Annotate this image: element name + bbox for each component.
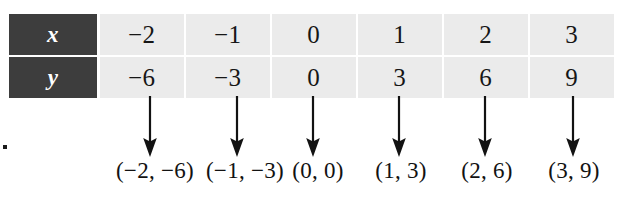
table-cell: −6 (100, 57, 184, 98)
down-arrow-icon (563, 96, 583, 158)
ordered-pair-label: (−2, −6) (116, 158, 194, 184)
row-header-x: x (9, 14, 97, 55)
table-row: x −2 −1 0 1 2 3 (9, 14, 615, 55)
ordered-pair-label: (2, 6) (461, 158, 513, 184)
table-cell: −3 (186, 57, 270, 98)
table-cell: −2 (100, 14, 184, 55)
down-arrow-icon (227, 96, 247, 158)
table-cell: 3 (530, 14, 614, 55)
down-arrow-icon (389, 96, 409, 158)
row-header-y: y (9, 57, 97, 98)
table-cell: 0 (272, 57, 356, 98)
table-cell: 6 (444, 57, 528, 98)
table-cell: 1 (358, 14, 442, 55)
down-arrow-icon (303, 96, 323, 158)
table-cell: 0 (272, 14, 356, 55)
row-y-cells: −6 −3 0 3 6 9 (100, 57, 614, 98)
arrow-group (0, 96, 627, 160)
row-x-cells: −2 −1 0 1 2 3 (100, 14, 614, 55)
ordered-pair-label: (0, 0) (292, 158, 344, 184)
table-row: y −6 −3 0 3 6 9 (9, 57, 615, 98)
function-table-figure: x −2 −1 0 1 2 3 y −6 −3 0 3 6 9 (0, 0, 627, 200)
down-arrow-icon (475, 96, 495, 158)
ordered-pair-label: (−1, −3) (206, 158, 284, 184)
table-cell: 9 (530, 57, 614, 98)
ordered-pair-group: (−2, −6) (−1, −3) (0, 0) (1, 3) (2, 6) (… (0, 158, 627, 192)
table-cell: 2 (444, 14, 528, 55)
down-arrow-icon (140, 96, 160, 158)
table-cell: 3 (358, 57, 442, 98)
ordered-pair-label: (1, 3) (375, 158, 427, 184)
ordered-pair-label: (3, 9) (548, 158, 600, 184)
table-cell: −1 (186, 14, 270, 55)
value-table: x −2 −1 0 1 2 3 y −6 −3 0 3 6 9 (9, 14, 615, 98)
